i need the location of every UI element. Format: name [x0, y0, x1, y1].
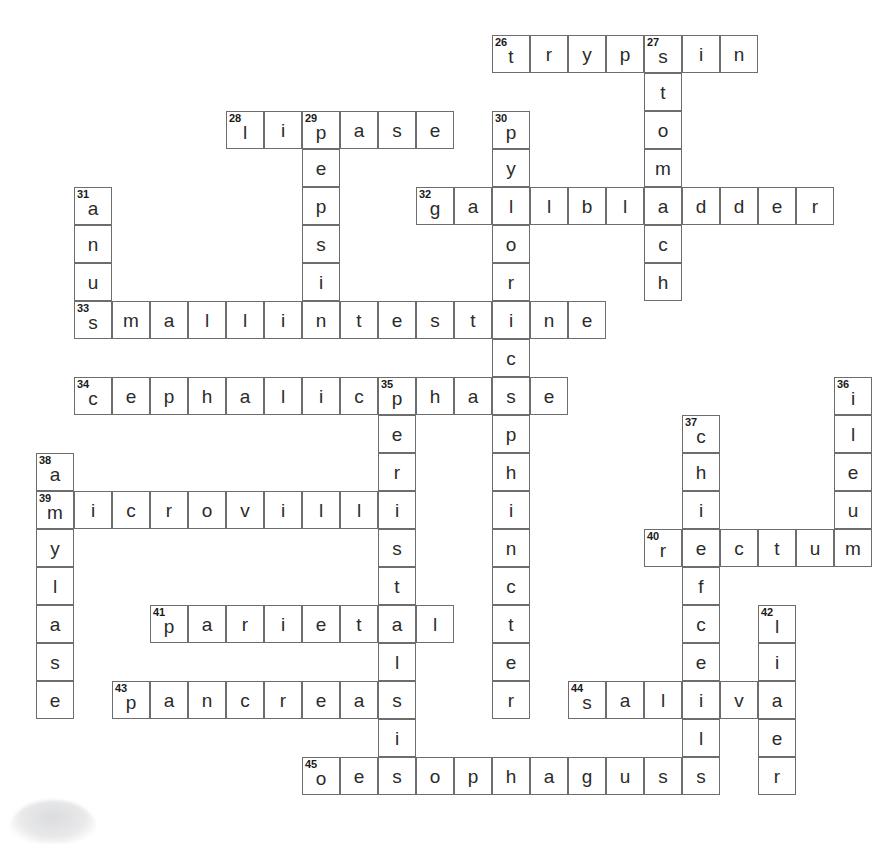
crossword-cell[interactable]: c: [682, 605, 720, 643]
crossword-cell[interactable]: i: [264, 301, 302, 339]
crossword-cell[interactable]: m: [112, 301, 150, 339]
crossword-cell[interactable]: a: [454, 377, 492, 415]
crossword-cell[interactable]: s: [36, 643, 74, 681]
crossword-cell[interactable]: 28l: [226, 111, 264, 149]
crossword-cell[interactable]: c: [340, 377, 378, 415]
crossword-cell[interactable]: g: [568, 757, 606, 795]
crossword-cell[interactable]: a: [150, 681, 188, 719]
crossword-cell[interactable]: n: [492, 529, 530, 567]
crossword-cell[interactable]: 32g: [416, 187, 454, 225]
crossword-cell[interactable]: i: [264, 491, 302, 529]
crossword-cell[interactable]: m: [644, 149, 682, 187]
crossword-cell[interactable]: l: [264, 377, 302, 415]
crossword-cell[interactable]: a: [606, 681, 644, 719]
crossword-cell[interactable]: i: [758, 643, 796, 681]
crossword-cell[interactable]: a: [530, 757, 568, 795]
crossword-cell[interactable]: c: [644, 225, 682, 263]
crossword-cell[interactable]: y: [568, 35, 606, 73]
crossword-cell[interactable]: 45o: [302, 757, 340, 795]
crossword-cell[interactable]: p: [454, 757, 492, 795]
crossword-cell[interactable]: 29p: [302, 111, 340, 149]
crossword-cell[interactable]: a: [378, 605, 416, 643]
crossword-cell[interactable]: l: [682, 719, 720, 757]
crossword-cell[interactable]: r: [492, 681, 530, 719]
crossword-cell[interactable]: p: [302, 187, 340, 225]
crossword-cell[interactable]: t: [378, 567, 416, 605]
crossword-cell[interactable]: 42l: [758, 605, 796, 643]
crossword-cell[interactable]: h: [682, 453, 720, 491]
crossword-cell[interactable]: r: [378, 453, 416, 491]
crossword-cell[interactable]: p: [150, 377, 188, 415]
crossword-cell[interactable]: i: [682, 491, 720, 529]
crossword-cell[interactable]: r: [492, 263, 530, 301]
crossword-cell[interactable]: e: [682, 529, 720, 567]
crossword-cell[interactable]: i: [302, 377, 340, 415]
crossword-cell[interactable]: s: [644, 757, 682, 795]
crossword-cell[interactable]: v: [226, 491, 264, 529]
crossword-cell[interactable]: s: [682, 757, 720, 795]
crossword-cell[interactable]: 43p: [112, 681, 150, 719]
crossword-cell[interactable]: o: [644, 111, 682, 149]
crossword-cell[interactable]: l: [834, 415, 872, 453]
crossword-cell[interactable]: l: [644, 681, 682, 719]
crossword-cell[interactable]: l: [226, 301, 264, 339]
crossword-cell[interactable]: r: [796, 187, 834, 225]
crossword-cell[interactable]: d: [720, 187, 758, 225]
crossword-cell[interactable]: a: [188, 605, 226, 643]
crossword-cell[interactable]: r: [530, 35, 568, 73]
crossword-cell[interactable]: c: [112, 491, 150, 529]
crossword-cell[interactable]: e: [758, 719, 796, 757]
crossword-cell[interactable]: l: [530, 187, 568, 225]
crossword-cell[interactable]: a: [758, 681, 796, 719]
crossword-cell[interactable]: 27s: [644, 35, 682, 73]
crossword-cell[interactable]: o: [416, 757, 454, 795]
crossword-cell[interactable]: p: [492, 415, 530, 453]
crossword-cell[interactable]: 37c: [682, 415, 720, 453]
crossword-cell[interactable]: c: [492, 567, 530, 605]
crossword-cell[interactable]: h: [188, 377, 226, 415]
crossword-cell[interactable]: e: [36, 681, 74, 719]
crossword-cell[interactable]: 31a: [74, 187, 112, 225]
crossword-cell[interactable]: i: [378, 491, 416, 529]
crossword-cell[interactable]: m: [834, 529, 872, 567]
crossword-cell[interactable]: i: [492, 301, 530, 339]
crossword-cell[interactable]: r: [150, 491, 188, 529]
crossword-cell[interactable]: v: [720, 681, 758, 719]
crossword-cell[interactable]: e: [112, 377, 150, 415]
crossword-cell[interactable]: 33s: [74, 301, 112, 339]
crossword-cell[interactable]: i: [492, 491, 530, 529]
crossword-cell[interactable]: y: [492, 149, 530, 187]
crossword-cell[interactable]: l: [416, 605, 454, 643]
crossword-cell[interactable]: t: [644, 73, 682, 111]
crossword-cell[interactable]: 39m: [36, 491, 74, 529]
crossword-cell[interactable]: s: [378, 529, 416, 567]
crossword-cell[interactable]: p: [606, 35, 644, 73]
crossword-cell[interactable]: b: [568, 187, 606, 225]
crossword-cell[interactable]: l: [492, 187, 530, 225]
crossword-cell[interactable]: d: [682, 187, 720, 225]
crossword-cell[interactable]: l: [340, 491, 378, 529]
crossword-cell[interactable]: h: [416, 377, 454, 415]
crossword-cell[interactable]: 38a: [36, 453, 74, 491]
crossword-cell[interactable]: t: [340, 605, 378, 643]
crossword-cell[interactable]: e: [340, 757, 378, 795]
crossword-cell[interactable]: s: [378, 111, 416, 149]
crossword-cell[interactable]: l: [188, 301, 226, 339]
crossword-cell[interactable]: o: [188, 491, 226, 529]
crossword-cell[interactable]: u: [74, 263, 112, 301]
crossword-cell[interactable]: e: [758, 187, 796, 225]
crossword-cell[interactable]: h: [492, 453, 530, 491]
crossword-cell[interactable]: c: [226, 681, 264, 719]
crossword-cell[interactable]: s: [378, 681, 416, 719]
crossword-cell[interactable]: u: [796, 529, 834, 567]
crossword-cell[interactable]: e: [568, 301, 606, 339]
crossword-cell[interactable]: r: [226, 605, 264, 643]
crossword-cell[interactable]: a: [36, 605, 74, 643]
crossword-cell[interactable]: e: [378, 415, 416, 453]
crossword-cell[interactable]: i: [264, 605, 302, 643]
crossword-cell[interactable]: s: [416, 301, 454, 339]
crossword-cell[interactable]: i: [682, 681, 720, 719]
crossword-cell[interactable]: n: [720, 35, 758, 73]
crossword-cell[interactable]: i: [302, 263, 340, 301]
